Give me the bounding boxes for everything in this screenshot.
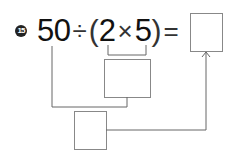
connector-lines [0, 0, 238, 161]
result-connector [106, 52, 206, 130]
bracket-line [108, 45, 146, 55]
